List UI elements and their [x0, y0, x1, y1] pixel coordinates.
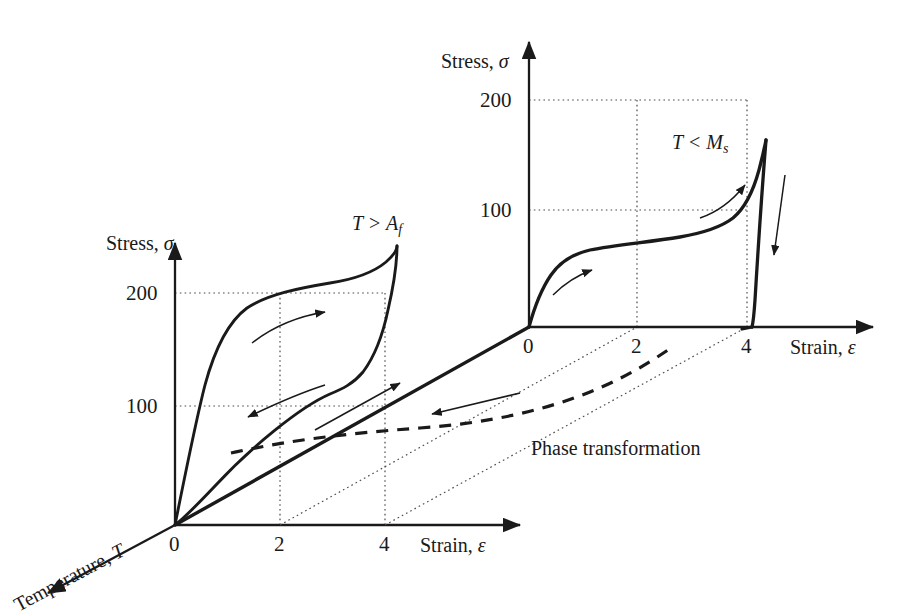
back-loading-arrow-1: [553, 270, 592, 295]
back-x-tick-4: 4: [741, 334, 752, 359]
back-condition-label: T < Ms: [672, 131, 728, 157]
front-loading-curve: [175, 246, 397, 525]
back-residual-strain-foot: [742, 327, 752, 329]
sigma-symbol-back: σ: [499, 50, 509, 72]
ms-subscript: s: [723, 141, 728, 156]
front-y-tick-100: 100: [126, 394, 158, 419]
af-subscript: f: [398, 222, 402, 237]
figure-root: Stress, σ 200 100 0 2 4 Strain, ε T > Af…: [0, 0, 901, 616]
back-y-tick-100: 100: [480, 198, 512, 223]
phase-transformation-label: Phase transformation: [531, 437, 700, 460]
front-y-axis-label: Stress, σ: [106, 232, 174, 255]
back-y-axis-label: Stress, σ: [441, 50, 509, 73]
back-loading-curve: [529, 140, 766, 327]
phase-transformation-arrow: [432, 393, 520, 414]
front-y-tick-200: 200: [126, 281, 158, 306]
front-x-tick-0: 0: [169, 532, 180, 557]
front-x-tick-2: 2: [274, 532, 285, 557]
front-condition-label: T > Af: [352, 212, 402, 238]
back-x-tick-0: 0: [523, 334, 534, 359]
back-y-tick-200: 200: [480, 88, 512, 113]
front-x-axis-label: Strain, ε: [420, 534, 486, 557]
figure-svg: [0, 0, 901, 616]
back-unloading-arrow: [774, 175, 785, 255]
back-x-axis-label: Strain, ε: [790, 336, 856, 359]
front-loading-arrow: [252, 312, 325, 343]
epsilon-symbol: ε: [478, 534, 486, 556]
front-unloading-curve: [175, 246, 397, 525]
epsilon-symbol-back: ε: [848, 336, 856, 358]
sigma-symbol: σ: [164, 232, 174, 254]
back-x-tick-2: 2: [631, 334, 642, 359]
elastic-depth-line: [175, 327, 529, 525]
front-x-tick-4: 4: [379, 532, 390, 557]
